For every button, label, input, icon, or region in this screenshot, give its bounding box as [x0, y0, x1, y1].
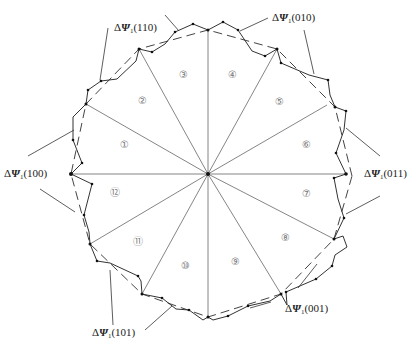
sector-1: ①	[120, 139, 129, 150]
sector-10: ⑩	[181, 260, 190, 271]
label-001: ΔΨ1(001)	[285, 302, 329, 316]
sector-2: ②	[138, 95, 147, 106]
label-110: ΔΨ1(110)	[114, 21, 157, 35]
label-leaders	[28, 15, 380, 330]
label-010: ΔΨ1(010)	[272, 11, 316, 25]
sector-6: ⑥	[302, 139, 311, 150]
flux-trajectory	[71, 22, 347, 320]
sector-7: ⑦	[302, 188, 311, 199]
sector-11: ⑪	[133, 236, 143, 247]
label-100: ΔΨ1(100)	[4, 167, 48, 181]
reference-dodecagon	[71, 30, 352, 317]
sector-4: ④	[228, 69, 237, 80]
label-011: ΔΨ1(011)	[364, 167, 407, 181]
sector-5: ⑤	[275, 96, 284, 107]
flux-sector-diagram: ① ② ③ ④ ⑤ ⑥ ⑦ ⑧ ⑨ ⑩ ⑪ ⑫ ΔΨ1(110) ΔΨ1(010…	[0, 0, 417, 349]
sector-3: ③	[179, 69, 188, 80]
sector-12: ⑫	[110, 187, 120, 198]
sector-9: ⑨	[231, 256, 240, 267]
label-101: ΔΨ1(101)	[92, 326, 136, 340]
sector-8: ⑧	[281, 232, 290, 243]
